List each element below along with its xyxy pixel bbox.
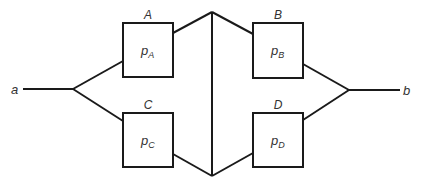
edge-bridge-bottom-to-D [212,153,253,176]
component-label-A: A [143,8,152,22]
probability-label-A: pA [140,43,154,60]
edge-a-to-C [73,89,123,121]
edge-D-to-b [303,90,349,120]
edge-a-to-A [73,61,123,89]
component-label-B: B [274,8,282,22]
reliability-diagram: a b A C B D pA pC pB pD [0,0,422,189]
edge-bridge-top-to-B [212,12,253,34]
terminal-label-b: b [403,83,410,98]
edge-B-to-b [303,64,349,90]
terminal-label-a: a [11,82,18,97]
probability-label-C: pC [140,133,155,150]
edge-C-to-bridge-bottom [173,154,212,176]
component-label-C: C [144,98,153,112]
probability-label-B: pB [270,43,284,60]
probability-label-D: pD [270,133,285,150]
component-label-D: D [274,98,283,112]
edge-A-to-bridge-top [173,12,212,33]
